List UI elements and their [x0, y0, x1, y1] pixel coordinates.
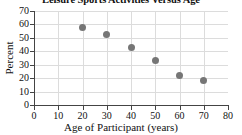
- data-point: [152, 57, 159, 64]
- chart-title: Leisure Sports Activities Versus Age: [0, 0, 242, 5]
- plot-area: [34, 11, 228, 105]
- y-axis-tick-label: 20: [7, 73, 29, 83]
- data-point: [176, 72, 183, 79]
- y-axis-tick: [30, 92, 35, 93]
- y-axis-tick: [30, 38, 35, 39]
- y-axis-tick-label: 50: [7, 33, 29, 43]
- x-axis-tick-label: 30: [95, 111, 119, 121]
- y-axis-tick-label: 0: [7, 100, 29, 110]
- y-axis-tick-label: 30: [7, 60, 29, 70]
- x-axis-tick-label: 60: [168, 111, 192, 121]
- y-axis-tick-label: 40: [7, 46, 29, 56]
- data-point: [200, 77, 207, 84]
- y-axis-tick: [30, 65, 35, 66]
- y-axis-tick-label: 70: [7, 6, 29, 16]
- x-axis-tick-label: 70: [192, 111, 216, 121]
- x-axis-tick-label: 10: [46, 111, 70, 121]
- y-axis-tick-label: 60: [7, 19, 29, 29]
- data-point: [128, 44, 135, 51]
- x-axis-tick-label: 0: [22, 111, 46, 121]
- y-axis-tick-label: 10: [7, 87, 29, 97]
- gridline-vertical: [58, 11, 59, 105]
- y-axis-tick: [30, 51, 35, 52]
- gridline-vertical: [131, 11, 132, 105]
- data-point: [79, 24, 86, 31]
- gridline-vertical: [180, 11, 181, 105]
- y-axis-tick: [30, 11, 35, 12]
- y-axis-tick: [30, 24, 35, 25]
- x-axis-title: Age of Participant (years): [0, 121, 242, 133]
- x-axis-tick-label: 80: [216, 111, 240, 121]
- y-axis-tick: [30, 78, 35, 79]
- x-axis-tick-label: 20: [71, 111, 95, 121]
- gridline-vertical: [204, 11, 205, 105]
- scatter-chart: Leisure Sports Activities Versus Age Per…: [0, 0, 242, 135]
- gridline-vertical: [107, 11, 108, 105]
- x-axis-tick-label: 50: [143, 111, 167, 121]
- x-axis-tick-label: 40: [119, 111, 143, 121]
